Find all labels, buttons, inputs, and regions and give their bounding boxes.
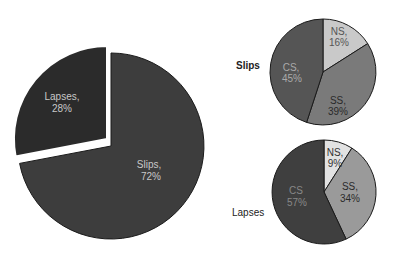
slips-pct: 72% xyxy=(141,171,161,182)
slips-ss-label: SS, xyxy=(330,95,346,106)
lapses-ns-label: NS, xyxy=(327,147,344,158)
lapses-cs-label: CS xyxy=(289,185,303,196)
slips-ns-pct: 16% xyxy=(329,37,349,48)
lapses-ss-label: SS, xyxy=(342,181,358,192)
chart-canvas: Lapses, 28% Slips, 72% Slips NS, 16% CS,… xyxy=(0,0,394,257)
slips-cs-label: CS, xyxy=(283,62,300,73)
slips-cs-pct: 45% xyxy=(282,73,302,84)
lapses-ss-pct: 34% xyxy=(340,193,360,204)
lapses-cs-pct: 57% xyxy=(287,197,307,208)
lapses-ns-pct: 9% xyxy=(328,158,343,169)
slips-pie-title: Slips xyxy=(236,60,260,71)
lapses-label: Lapses, xyxy=(44,91,79,102)
slips-label: Slips, xyxy=(137,159,161,170)
lapses-pct: 28% xyxy=(52,103,72,114)
slips-ns-label: NS, xyxy=(331,26,348,37)
lapses-pie-title: Lapses xyxy=(232,207,264,218)
slips-ss-pct: 39% xyxy=(328,106,348,117)
